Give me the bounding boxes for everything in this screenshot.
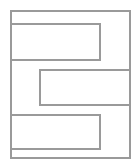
diagram-canvas bbox=[0, 0, 139, 167]
outer-frame bbox=[11, 11, 130, 158]
top-left-block bbox=[11, 24, 100, 60]
middle-right-block bbox=[40, 70, 130, 105]
bottom-left-block bbox=[11, 115, 100, 149]
